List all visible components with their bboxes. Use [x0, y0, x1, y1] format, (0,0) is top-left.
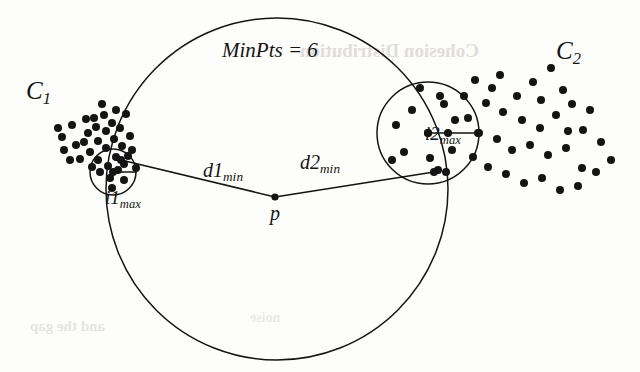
data-point	[118, 142, 126, 150]
figure-drawing	[0, 0, 640, 372]
data-point	[128, 146, 136, 154]
data-point	[120, 176, 128, 184]
data-point	[60, 146, 68, 154]
data-point	[94, 156, 102, 164]
data-point	[568, 100, 576, 108]
data-point	[92, 123, 100, 131]
data-point	[90, 114, 98, 122]
data-point	[451, 116, 459, 124]
data-point	[518, 116, 526, 124]
data-point	[502, 170, 510, 178]
data-point	[102, 127, 110, 135]
data-point	[126, 132, 134, 140]
point-p-dot	[271, 193, 278, 200]
label-minpts: MinPts = 6	[222, 40, 318, 61]
data-point	[547, 64, 555, 72]
data-point	[559, 86, 567, 94]
data-point	[482, 99, 490, 107]
data-point	[464, 114, 472, 122]
data-point	[440, 100, 448, 108]
data-point	[96, 168, 104, 176]
data-point	[544, 151, 552, 159]
data-point	[112, 106, 120, 114]
data-point	[537, 96, 545, 104]
data-point	[562, 144, 570, 152]
data-point	[564, 127, 572, 135]
data-point	[82, 115, 90, 123]
data-point	[597, 138, 605, 146]
data-point	[400, 148, 408, 156]
data-point	[86, 148, 94, 156]
data-point	[110, 135, 118, 143]
label-i2max: i2max	[425, 124, 461, 146]
data-point	[116, 124, 124, 132]
data-point	[552, 111, 560, 119]
data-point	[520, 179, 528, 187]
data-point	[592, 168, 600, 176]
data-point	[108, 119, 116, 127]
d1min-segment	[121, 160, 275, 197]
data-point	[66, 156, 74, 164]
data-point	[109, 168, 117, 176]
data-point	[578, 164, 586, 172]
data-point	[471, 76, 479, 84]
data-point	[426, 154, 434, 162]
data-point	[574, 182, 582, 190]
minpts-neighborhood-circle	[106, 18, 448, 360]
data-point	[88, 163, 96, 171]
cluster-c2-points	[436, 64, 615, 194]
data-point	[98, 100, 106, 108]
data-point	[84, 129, 92, 137]
cluster-c1-points	[54, 100, 140, 192]
data-point	[513, 92, 521, 100]
data-point	[529, 78, 537, 86]
data-point	[448, 146, 456, 154]
label-d1min: d1min	[203, 160, 243, 183]
data-point	[579, 126, 587, 134]
data-point	[80, 138, 88, 146]
data-point	[496, 71, 504, 79]
data-point	[536, 124, 544, 132]
label-point-p: p	[270, 203, 280, 223]
data-point	[122, 110, 130, 118]
data-point	[68, 121, 76, 129]
data-point	[117, 156, 125, 164]
data-point	[100, 111, 108, 119]
data-point	[526, 141, 534, 149]
data-point	[72, 141, 80, 149]
data-point	[607, 156, 615, 164]
data-point	[58, 133, 66, 141]
data-point	[442, 168, 450, 176]
data-point	[54, 124, 62, 132]
data-point	[430, 168, 438, 176]
data-point	[436, 92, 444, 100]
data-point	[132, 164, 140, 172]
data-point	[508, 146, 516, 154]
data-point	[484, 163, 492, 171]
data-point	[499, 108, 507, 116]
data-point	[488, 84, 496, 92]
data-point	[475, 129, 483, 137]
data-point	[94, 137, 102, 145]
label-cluster-c1: C1	[26, 78, 51, 107]
data-point	[408, 106, 416, 114]
label-d2min: d2min	[300, 152, 340, 175]
data-point	[76, 155, 84, 163]
figure-canvas: Cohesion Distribution and the gap noise …	[0, 0, 640, 372]
data-point	[493, 135, 501, 143]
label-i1max: i1max	[105, 188, 141, 210]
data-point	[392, 121, 400, 129]
data-point	[538, 174, 546, 182]
data-point	[586, 106, 594, 114]
data-point	[416, 84, 424, 92]
data-point	[388, 156, 396, 164]
data-point	[460, 92, 468, 100]
data-point	[469, 153, 477, 161]
label-cluster-c2: C2	[556, 38, 581, 67]
d2min-segment	[275, 172, 434, 197]
data-point	[102, 144, 110, 152]
data-point	[556, 186, 564, 194]
